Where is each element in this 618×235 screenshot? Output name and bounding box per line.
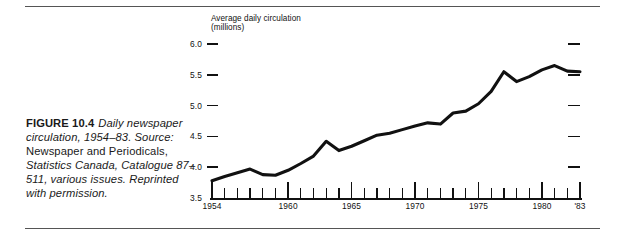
figure-container: FIGURE 10.4Daily newspaper circulation, … — [0, 0, 618, 235]
line-chart: Average daily circulation (millions) 3.5… — [0, 0, 618, 235]
data-series-line — [0, 0, 618, 235]
